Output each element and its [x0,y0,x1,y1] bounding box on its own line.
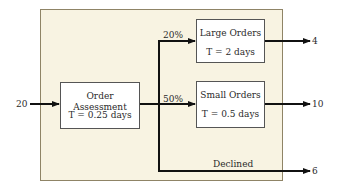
large-orders-title: Large Orders [197,28,264,39]
small-percent: 50% [163,94,183,104]
large-orders-box: Large Orders T = 2 days [196,19,265,63]
input-value: 20 [16,99,27,109]
large-output: 4 [312,36,318,46]
small-orders-box: Small Orders T = 0.5 days [196,81,265,128]
small-output: 10 [312,99,323,109]
large-orders-time: T = 2 days [197,47,264,58]
small-orders-time: T = 0.5 days [197,109,264,120]
large-percent: 20% [163,30,183,40]
small-orders-title: Small Orders [197,90,264,101]
order-assessment-box: Order Assessment T = 0.25 days [60,82,140,129]
process-time: T = 0.25 days [61,110,139,121]
declined-label: Declined [213,159,253,169]
declined-output: 6 [312,166,318,176]
